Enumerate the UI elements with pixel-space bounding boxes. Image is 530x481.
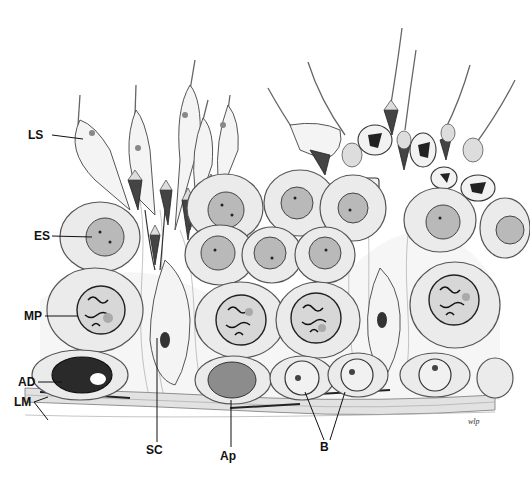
label-ap: Ap [220,449,236,463]
label-mp: MP [24,309,42,323]
ap-nucleus [208,362,256,398]
label-ad: AD [18,375,36,389]
label-b: B [320,440,329,454]
seminiferous-epithelium-diagram: LS ES MP AD LM SC Ap B wlp [0,0,530,481]
b-nucleus [285,361,319,395]
label-es: ES [34,229,50,243]
label-ls: LS [28,128,43,142]
label-sc: SC [146,443,163,457]
artist-signature: wlp [468,417,480,426]
label-lm: LM [14,395,31,409]
